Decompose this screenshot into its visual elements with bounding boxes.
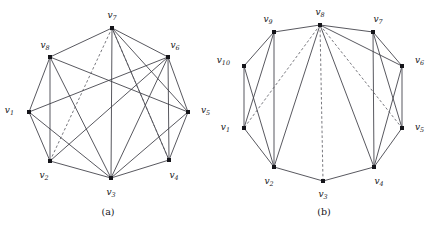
graph-diagram-b: v1v2v3v4v5v6v7v8v9v10 [216,0,432,205]
panel-b: v1v2v3v4v5v6v7v8v9v10 (b) [216,0,432,244]
edge-v5-v6 [168,57,188,112]
vertex-label-v10: v10 [217,55,230,67]
edge-v5-v7 [112,28,188,112]
vertex-label-v3: v3 [318,189,327,201]
dashed-edge-v8-v5 [320,25,402,128]
edge-v6-v7 [373,32,402,66]
edge-v4-v6 [168,57,169,160]
edge-v1-v8 [29,57,50,112]
vertex-label-v7: v7 [107,10,117,22]
vertex-v4[interactable] [167,158,171,162]
vertex-label-v2: v2 [264,176,273,188]
vertex-label-v4: v4 [374,176,383,188]
vertex-label-v5: v5 [415,122,424,134]
edge-v3-v4 [323,167,374,181]
vertex-v6[interactable] [400,64,404,68]
edge-v8-v9 [274,25,320,32]
vertex-v4[interactable] [372,165,376,169]
edge-v5-v7 [373,32,402,128]
vertex-v6[interactable] [166,55,170,59]
edge-v1-v2 [244,128,274,167]
edge-v2-v3 [50,161,111,178]
vertex-label-v1: v1 [221,122,230,134]
graph-diagram-a: v1v2v3v4v5v6v7v8 [0,0,216,205]
caption-b: (b) [216,206,432,217]
panel-a: v1v2v3v4v5v6v7v8 (a) [0,0,216,244]
dashed-edge-v7-v2 [50,28,112,161]
edge-v1-v2 [29,112,50,161]
edge-layer [29,28,188,178]
vertex-v1[interactable] [27,110,31,114]
vertex-v8[interactable] [48,55,52,59]
vertex-v10[interactable] [242,64,246,68]
edge-v2-v6 [50,57,168,161]
vertex-v7[interactable] [371,30,375,34]
edge-v3-v8 [50,57,111,178]
edge-v9-v10 [244,32,274,66]
vertex-label-v8: v8 [40,40,49,52]
edge-v4-v8 [320,25,374,167]
vertex-label-v1: v1 [5,105,14,117]
edge-v6-v8 [320,25,402,66]
vertex-v5[interactable] [186,110,190,114]
edge-v3-v6 [111,57,168,178]
dashed-edge-v8-v1 [244,25,320,128]
edge-v6-v7 [112,28,168,57]
edge-v4-v5 [169,112,188,160]
edge-layer [244,25,402,181]
vertex-label-v3: v3 [106,187,115,199]
edge-v3-v4 [111,160,169,178]
edge-v4-v5 [374,128,402,167]
vertex-label-v7: v7 [373,14,383,26]
dashed-edge-v8-v3 [320,25,323,181]
edge-v2-v8 [274,25,320,167]
vertex-v2[interactable] [48,159,52,163]
caption-a: (a) [0,206,216,217]
vertex-v7[interactable] [110,26,114,30]
vertex-label-v6: v6 [170,40,179,52]
vertex-v3[interactable] [321,179,325,183]
figure-container: v1v2v3v4v5v6v7v8 (a) v1v2v3v4v5v6v7v8v9v… [0,0,432,244]
edge-v5-v8 [50,57,188,112]
vertex-label-v9: v9 [263,14,272,26]
edge-v1-v3 [29,112,111,178]
vertex-v1[interactable] [242,126,246,130]
edge-v7-v8 [50,28,112,57]
edge-v3-v5 [111,112,188,178]
vertex-label-v2: v2 [39,170,48,182]
edge-v2-v3 [274,167,323,181]
edge-v3-v7 [111,28,112,178]
vertex-label-v8: v8 [315,7,324,19]
vertex-v8[interactable] [318,23,322,27]
vertex-label-v4: v4 [169,170,178,182]
vertex-v2[interactable] [272,165,276,169]
vertex-label-v6: v6 [415,55,424,67]
vertex-v3[interactable] [109,176,113,180]
vertex-v5[interactable] [400,126,404,130]
vertex-label-v5: v5 [201,105,210,117]
vertex-v9[interactable] [272,30,276,34]
